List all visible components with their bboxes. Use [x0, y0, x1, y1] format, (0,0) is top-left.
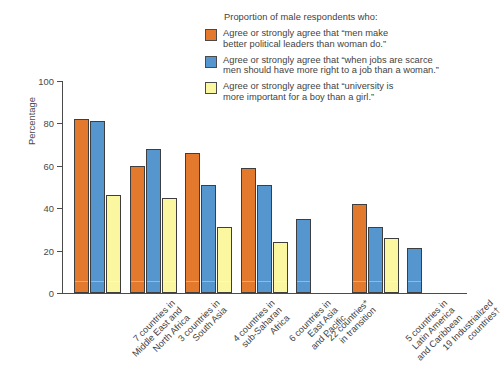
legend-item-political-leaders: Agree or strongly agree that “men make b… [205, 28, 471, 49]
bar-group [130, 81, 178, 293]
plot-area: 020406080100 [62, 81, 467, 293]
bar[interactable] [106, 195, 121, 293]
bar[interactable] [273, 242, 288, 293]
bar[interactable] [185, 153, 200, 293]
legend-label-line-1: Agree or strongly agree that “men make [223, 28, 388, 38]
bar[interactable] [162, 198, 177, 293]
y-tick-label: 20 [44, 245, 54, 256]
bar[interactable] [130, 166, 145, 293]
bar-group [74, 81, 122, 293]
y-tick-mark [57, 123, 62, 124]
bar[interactable] [407, 248, 422, 293]
legend-label-jobs-scarce: Agree or strongly agree that “when jobs … [223, 55, 439, 76]
legend-label-line-1: Agree or strongly agree that “when jobs … [223, 55, 433, 65]
bar-group [407, 81, 423, 293]
legend-item-jobs-scarce: Agree or strongly agree that “when jobs … [205, 55, 471, 76]
bar[interactable] [90, 121, 105, 293]
y-tick-label: 60 [44, 160, 54, 171]
y-axis-line [62, 81, 63, 293]
x-axis-line [62, 293, 467, 294]
bar[interactable] [217, 227, 232, 293]
legend-label-line-2: men should have more right to a job than… [223, 65, 439, 75]
bar-group [352, 81, 400, 293]
bar[interactable] [201, 185, 216, 293]
y-tick-mark [57, 166, 62, 167]
legend-label-line-2: better political leaders than woman do.” [223, 39, 386, 49]
y-tick-mark [57, 293, 62, 294]
x-axis-label: 4 countries insub-SaharanAfrica [231, 298, 292, 359]
bar[interactable] [296, 219, 311, 293]
bar-group [296, 81, 312, 293]
bar[interactable] [384, 238, 399, 293]
legend-title: Proportion of male respondents who: [224, 12, 471, 22]
bar[interactable] [74, 119, 89, 293]
legend-label-political-leaders: Agree or strongly agree that “men make b… [223, 28, 388, 49]
bar-group [185, 81, 233, 293]
y-tick-label: 40 [44, 203, 54, 214]
legend-swatch-blue-icon [205, 56, 217, 68]
y-tick-mark [57, 208, 62, 209]
legend-swatch-orange-icon [205, 29, 217, 41]
y-axis-label: Percentage [26, 97, 37, 145]
bar-group [241, 81, 289, 293]
y-tick-label: 80 [44, 118, 54, 129]
bar[interactable] [241, 168, 256, 293]
bar[interactable] [146, 149, 161, 293]
y-tick-label: 100 [38, 76, 54, 87]
y-tick-mark [57, 251, 62, 252]
bar[interactable] [257, 185, 272, 293]
bar[interactable] [352, 204, 367, 293]
y-tick-label: 0 [49, 288, 54, 299]
y-tick-mark [57, 81, 62, 82]
bar[interactable] [368, 227, 383, 293]
